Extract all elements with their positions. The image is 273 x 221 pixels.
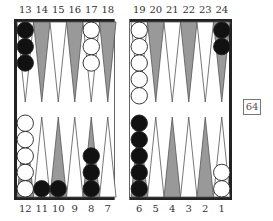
checker-black-point-6[interactable] xyxy=(131,115,147,131)
point-14[interactable] xyxy=(34,22,51,102)
checker-black-point-8[interactable] xyxy=(83,148,99,164)
point-4[interactable] xyxy=(164,117,181,197)
point-21[interactable] xyxy=(164,22,181,102)
point-label-10: 10 xyxy=(50,203,67,214)
point-label-22: 22 xyxy=(180,4,197,15)
checker-black-point-11[interactable] xyxy=(34,181,50,197)
point-label-17: 17 xyxy=(83,4,100,15)
point-label-3: 3 xyxy=(180,203,197,214)
point-label-18: 18 xyxy=(99,4,116,15)
checker-black-point-13[interactable] xyxy=(17,22,33,38)
point-label-1: 1 xyxy=(213,203,230,214)
point-5[interactable] xyxy=(148,117,165,197)
checker-white-point-19[interactable] xyxy=(131,71,147,87)
checker-white-point-12[interactable] xyxy=(17,181,33,197)
checker-white-point-19[interactable] xyxy=(131,88,147,104)
checker-white-point-17[interactable] xyxy=(83,22,99,38)
point-7[interactable] xyxy=(100,117,117,197)
checker-white-point-17[interactable] xyxy=(83,55,99,71)
point-2[interactable] xyxy=(197,117,214,197)
checker-black-point-10[interactable] xyxy=(50,181,66,197)
checker-white-point-19[interactable] xyxy=(131,38,147,54)
board-points-layer xyxy=(0,0,273,221)
checker-black-point-13[interactable] xyxy=(17,55,33,71)
point-label-5: 5 xyxy=(147,203,164,214)
checker-white-point-12[interactable] xyxy=(17,115,33,131)
point-label-9: 9 xyxy=(66,203,83,214)
point-label-12: 12 xyxy=(17,203,34,214)
checker-white-point-12[interactable] xyxy=(17,131,33,147)
point-label-24: 24 xyxy=(213,4,230,15)
point-label-8: 8 xyxy=(83,203,100,214)
checker-black-point-6[interactable] xyxy=(131,131,147,147)
checker-white-point-12[interactable] xyxy=(17,164,33,180)
point-16[interactable] xyxy=(67,22,84,102)
point-23[interactable] xyxy=(197,22,214,102)
point-label-16: 16 xyxy=(66,4,83,15)
point-label-13: 13 xyxy=(17,4,34,15)
checker-black-point-6[interactable] xyxy=(131,148,147,164)
point-label-23: 23 xyxy=(197,4,214,15)
checker-white-point-19[interactable] xyxy=(131,22,147,38)
checker-white-point-1[interactable] xyxy=(214,181,230,197)
checker-black-point-8[interactable] xyxy=(83,164,99,180)
point-label-6: 6 xyxy=(131,203,148,214)
point-label-15: 15 xyxy=(50,4,67,15)
checker-white-point-1[interactable] xyxy=(214,164,230,180)
checker-black-point-6[interactable] xyxy=(131,181,147,197)
point-label-14: 14 xyxy=(33,4,50,15)
point-label-7: 7 xyxy=(99,203,116,214)
point-label-19: 19 xyxy=(131,4,148,15)
point-label-20: 20 xyxy=(147,4,164,15)
point-18[interactable] xyxy=(100,22,117,102)
checker-white-point-12[interactable] xyxy=(17,148,33,164)
doubling-cube[interactable]: 64 xyxy=(243,99,261,115)
checker-black-point-8[interactable] xyxy=(83,181,99,197)
checker-white-point-17[interactable] xyxy=(83,38,99,54)
point-15[interactable] xyxy=(50,22,67,102)
point-label-11: 11 xyxy=(33,203,50,214)
point-9[interactable] xyxy=(67,117,84,197)
point-label-2: 2 xyxy=(197,203,214,214)
checker-black-point-6[interactable] xyxy=(131,164,147,180)
point-label-4: 4 xyxy=(164,203,181,214)
point-label-21: 21 xyxy=(164,4,181,15)
point-3[interactable] xyxy=(181,117,198,197)
point-22[interactable] xyxy=(181,22,198,102)
point-20[interactable] xyxy=(148,22,165,102)
checker-black-point-13[interactable] xyxy=(17,38,33,54)
checker-black-point-24[interactable] xyxy=(214,22,230,38)
checker-white-point-19[interactable] xyxy=(131,55,147,71)
checker-black-point-24[interactable] xyxy=(214,38,230,54)
